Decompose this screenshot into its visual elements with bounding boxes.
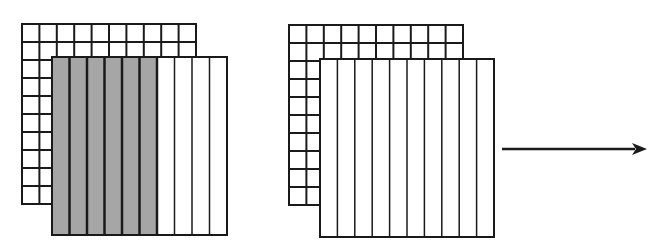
decimal-model-right: [289, 25, 494, 237]
shaded-strip: [105, 57, 123, 235]
shaded-strip: [122, 57, 140, 235]
diagram-canvas: [0, 0, 664, 247]
shaded-strip: [52, 57, 70, 235]
tenths-strips: [52, 57, 227, 235]
tenths-strips: [320, 59, 494, 237]
shaded-strip: [87, 57, 105, 235]
decimal-model-left: [22, 24, 227, 235]
right-arrow-icon: [502, 143, 647, 155]
shaded-strip: [70, 57, 88, 235]
shaded-strip: [140, 57, 158, 235]
